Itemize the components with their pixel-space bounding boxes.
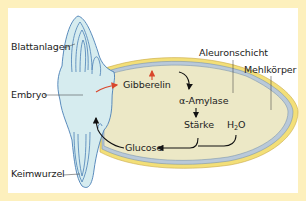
- label-blattanlagen: Blattanlagen: [11, 42, 70, 52]
- label-aleuronschicht: Aleuronschicht: [199, 48, 268, 58]
- label-mehlkoerper: Mehlkörper: [244, 65, 296, 75]
- label-staerke: Stärke: [184, 120, 214, 130]
- diagram-frame: Blattanlagen Embryo Keimwurzel Aleuronsc…: [0, 0, 306, 201]
- label-embryo: Embryo: [11, 90, 47, 100]
- label-gibberelin: Gibberelin: [123, 80, 171, 90]
- label-keimwurzel: Keimwurzel: [11, 169, 65, 179]
- label-amylase: α-Amylase: [179, 96, 228, 106]
- label-h2o: H2O: [227, 120, 245, 132]
- label-glucose: Glucose: [125, 143, 162, 153]
